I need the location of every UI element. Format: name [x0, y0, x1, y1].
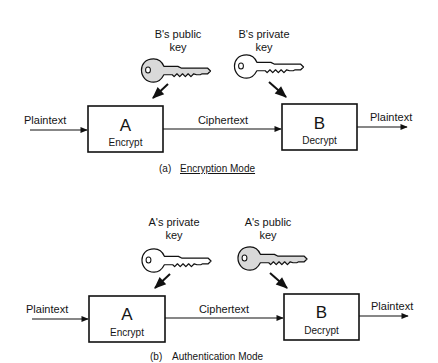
key-right-label-line2: key [255, 41, 273, 53]
output-label: Plaintext [370, 111, 412, 123]
box-b-letter: B [316, 303, 327, 322]
key-arrow-right [270, 273, 287, 288]
caption-prefix: (b) [150, 351, 162, 362]
key-arrow-left [153, 84, 168, 98]
key-right-label-line1: B's private [238, 28, 289, 40]
key-left-label-line1: A's private [148, 216, 199, 228]
input-label: Plaintext [26, 303, 68, 315]
public-key-diagram: B's public key B's private key Plaintext… [0, 0, 438, 363]
key-right-label-line1: A's public [245, 216, 292, 228]
channel-label: Ciphertext [198, 114, 248, 126]
panel-authentication-mode: A's private key A's public key Plaintext… [26, 216, 413, 362]
box-b-action: Decrypt [304, 325, 339, 336]
caption: Authentication Mode [172, 351, 264, 362]
key-left-label-line2: key [165, 229, 183, 241]
key-icon [142, 249, 211, 272]
key-left-label-line2: key [169, 41, 187, 53]
panel-encryption-mode: B's public key B's private key Plaintext… [24, 28, 412, 174]
box-b-action: Decrypt [302, 135, 337, 146]
box-b-letter: B [314, 114, 325, 133]
box-a-letter: A [120, 116, 132, 135]
box-a-action: Encrypt [110, 327, 144, 338]
channel-label: Ciphertext [199, 303, 249, 315]
key-icon [238, 247, 307, 270]
caption-prefix: (a) [159, 163, 171, 174]
key-icon [141, 59, 210, 82]
key-arrow-right [269, 82, 286, 97]
box-a-letter: A [121, 305, 133, 324]
key-arrow-left [155, 274, 170, 288]
key-icon [234, 55, 303, 78]
key-right-label-line2: key [259, 229, 277, 241]
caption: Encryption Mode [180, 163, 255, 174]
output-label: Plaintext [371, 300, 413, 312]
input-label: Plaintext [24, 114, 66, 126]
box-a-action: Encrypt [109, 137, 143, 148]
key-left-label-line1: B's public [155, 28, 202, 40]
